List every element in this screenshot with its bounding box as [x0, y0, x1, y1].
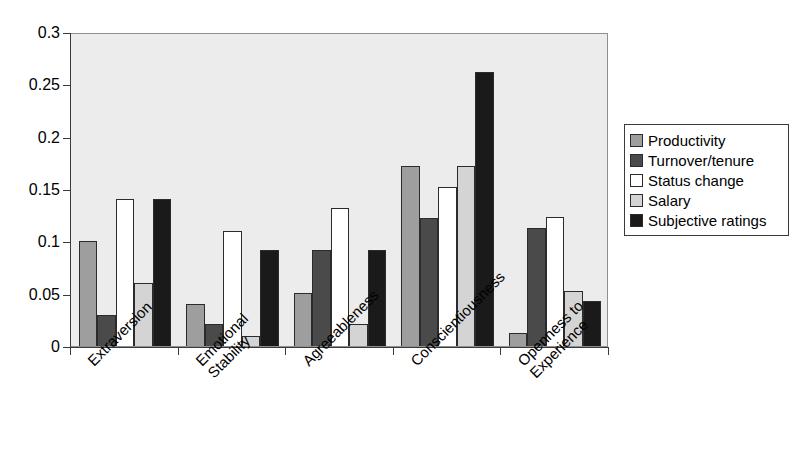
bar [401, 166, 420, 346]
bar [294, 293, 313, 346]
plot-area [70, 33, 608, 347]
legend-label: Salary [648, 193, 691, 208]
y-tick [63, 138, 70, 139]
legend-swatch-subjective-ratings [630, 214, 643, 227]
bar-group [186, 34, 279, 346]
legend-item[interactable]: Salary [630, 190, 782, 210]
x-tick [70, 347, 71, 355]
legend-item[interactable]: Status change [630, 170, 782, 190]
bar [79, 241, 98, 346]
legend-label: Subjective ratings [648, 213, 766, 228]
legend: Productivity Turnover/tenure Status chan… [624, 124, 789, 236]
x-tick [500, 347, 501, 355]
legend-label: Status change [648, 173, 744, 188]
legend-label: Turnover/tenure [648, 153, 754, 168]
x-tick [178, 347, 179, 355]
bar [153, 199, 172, 346]
y-tick [63, 347, 70, 348]
bar-chart-figure: 00.050.10.150.20.250.3 ExtraversionEmoti… [0, 0, 797, 473]
y-tick-label: 0.3 [2, 25, 60, 41]
y-tick [63, 242, 70, 243]
legend-swatch-turnover-tenure [630, 154, 643, 167]
y-tick-label: 0.2 [2, 130, 60, 146]
legend-swatch-status-change [630, 174, 643, 187]
legend-item[interactable]: Subjective ratings [630, 210, 782, 230]
bar [186, 304, 205, 346]
legend-item[interactable]: Turnover/tenure [630, 150, 782, 170]
x-tick [393, 347, 394, 355]
bar-group [509, 34, 602, 346]
y-tick [63, 33, 70, 34]
y-tick [63, 85, 70, 86]
legend-swatch-productivity [630, 134, 643, 147]
bar [509, 333, 528, 346]
bar [260, 250, 279, 346]
bars-layer [71, 34, 607, 346]
y-tick-label: 0.05 [2, 287, 60, 303]
y-tick [63, 295, 70, 296]
y-tick-label: 0.25 [2, 77, 60, 93]
x-tick [285, 347, 286, 355]
y-tick-label: 0.1 [2, 234, 60, 250]
bar-group [79, 34, 172, 346]
y-tick [63, 190, 70, 191]
y-axis-line [70, 33, 71, 348]
y-tick-label: 0 [2, 339, 60, 355]
y-tick-label: 0.15 [2, 182, 60, 198]
x-tick [608, 347, 609, 355]
legend-item[interactable]: Productivity [630, 130, 782, 150]
legend-swatch-salary [630, 194, 643, 207]
legend-label: Productivity [648, 133, 726, 148]
